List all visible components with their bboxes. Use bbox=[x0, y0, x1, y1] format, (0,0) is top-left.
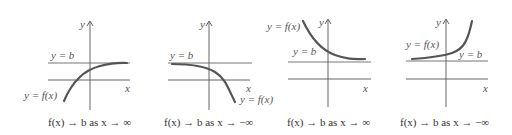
graph-2 bbox=[130, 0, 260, 135]
panel-3: y y = f(x) y = b x f(x) → b as x → ∞ bbox=[255, 0, 383, 135]
asymptote-label: y = b bbox=[51, 49, 74, 61]
caption: f(x) → b as x → −∞ bbox=[400, 116, 489, 128]
x-axis-label: x bbox=[125, 82, 130, 94]
function-label: y = f(x) bbox=[406, 38, 439, 50]
asymptote-label: y = b bbox=[459, 48, 482, 60]
y-axis-label: y bbox=[436, 16, 441, 28]
y-axis-label: y bbox=[200, 18, 205, 30]
y-axis-label: y bbox=[319, 16, 324, 28]
caption: f(x) → b as x → −∞ bbox=[164, 116, 253, 128]
asymptote-label: y = b bbox=[170, 49, 193, 61]
caption: f(x) → b as x → ∞ bbox=[48, 116, 131, 128]
panel-2: y y = b x y = f(x) f(x) → b as x → −∞ bbox=[130, 0, 258, 135]
asymptote-label: y = b bbox=[293, 45, 316, 57]
x-axis-label: x bbox=[483, 82, 488, 94]
graph-4 bbox=[382, 0, 512, 135]
panel-4: y y = f(x) y = b x f(x) → b as x → −∞ bbox=[382, 0, 510, 135]
panel-1: y y = b y = f(x) f(x) → b as x → ∞ bbox=[0, 0, 128, 135]
x-axis-label: x bbox=[363, 82, 368, 94]
y-axis-label: y bbox=[80, 18, 85, 30]
function-label: y = f(x) bbox=[267, 20, 300, 32]
graph-1 bbox=[0, 0, 130, 135]
caption: f(x) → b as x → ∞ bbox=[287, 116, 370, 128]
function-label: y = f(x) bbox=[24, 89, 57, 101]
